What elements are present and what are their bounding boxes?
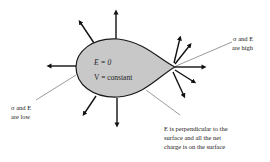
high-annotation-line1: σ and E [233, 35, 253, 42]
high-annotation-line2: are high [232, 44, 254, 51]
field-arrow-tip-4 [175, 70, 194, 82]
low-annotation-line1: σ and E [11, 104, 31, 111]
surface-annotation-line3: charge is on the surface [164, 143, 225, 150]
inside-field-label: E = 0 [93, 58, 111, 67]
leader-line-high [176, 42, 232, 66]
conductor-body [76, 39, 175, 97]
inside-potential-label: V = constant [94, 73, 133, 82]
conductor-field-diagram: E = 0 V = constant σ and E are high σ an… [0, 0, 270, 162]
leader-line-surface [146, 90, 180, 115]
field-arrow-bottom-left [84, 96, 96, 114]
field-arrow-top-left [80, 22, 94, 43]
surface-annotation-line2: surface and all the net [164, 134, 221, 141]
field-arrow-tip-5 [173, 72, 184, 96]
low-annotation-line2: are low [11, 113, 31, 120]
leader-line-low [36, 75, 76, 100]
surface-annotation-line1: E is perpendicular to the [164, 125, 228, 132]
